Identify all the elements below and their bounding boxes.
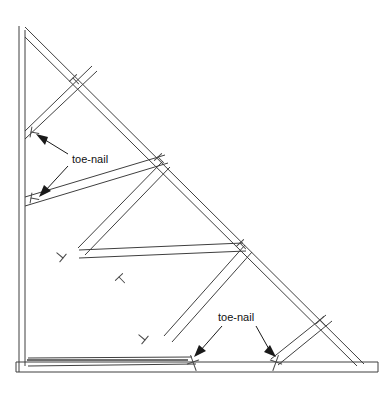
- nail-bottom-right: [267, 353, 284, 372]
- member-web-center-right: [164, 245, 252, 342]
- nail-web-center: [115, 274, 128, 287]
- callout-upper-toe-nail: toe-nail: [36, 134, 108, 197]
- nail-web-left: [54, 249, 67, 262]
- truss-diagram: toe-nail toe-nail: [0, 0, 382, 398]
- member-web-center-span: [79, 243, 246, 258]
- members-group: [16, 26, 378, 372]
- nail-bottom-left: [185, 353, 202, 372]
- truss-drawing-canvas: toe-nail toe-nail: [0, 0, 382, 398]
- callout-lower-toe-nail: toe-nail: [194, 311, 276, 357]
- arrow-head-upper-a: [36, 134, 48, 145]
- member-left-vertical-post: [19, 26, 25, 372]
- callout-label-upper: toe-nail: [72, 153, 108, 165]
- arrow-head-lower-b: [264, 345, 276, 357]
- nail-rafter-upper: [69, 75, 82, 88]
- nail-rafter-right: [236, 240, 249, 253]
- member-top-chord-rafter: [25, 27, 364, 366]
- nail-web-lower-center: [136, 331, 149, 344]
- member-bottom-chord: [16, 362, 378, 372]
- callout-label-lower: toe-nail: [218, 311, 254, 323]
- member-web-upper-left: [25, 66, 97, 139]
- leader-line-lower-b: [256, 326, 270, 351]
- member-web-center-left: [78, 161, 170, 255]
- leader-line-lower-a: [200, 326, 222, 351]
- nail-glyphs-group: [30, 75, 329, 373]
